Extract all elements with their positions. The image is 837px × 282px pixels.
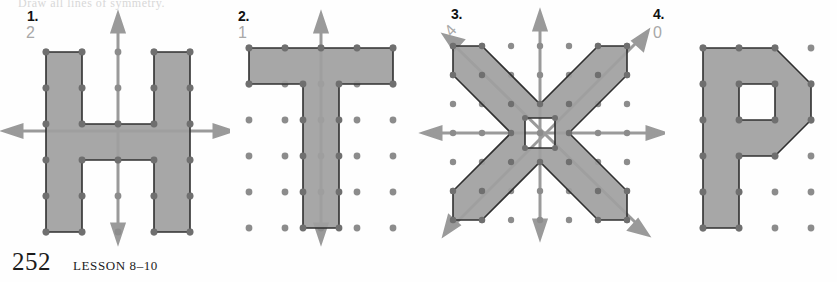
- workbook-page: Draw all lines of symmetry. 1. 2: [0, 0, 837, 282]
- letter-p-shape: [703, 48, 811, 228]
- axis-arrow-left: [4, 125, 22, 137]
- figure-4-canvas: [636, 0, 837, 250]
- axis-arrow-up: [534, 12, 546, 30]
- figure-3-number: 3.: [451, 6, 462, 22]
- figure-4-number: 4.: [653, 6, 664, 22]
- figure-2-t: 2. 1: [218, 0, 428, 250]
- figure-2-number: 2.: [238, 8, 249, 24]
- figure-4-answer: 0: [653, 24, 662, 42]
- figure-2-answer: 1: [238, 24, 247, 42]
- figure-1-number: 1.: [27, 8, 38, 24]
- lesson-label: LESSON 8–10: [73, 258, 158, 274]
- axis-arrow-up: [315, 14, 327, 32]
- letter-t-shape: [249, 48, 393, 228]
- axis-arrow-left: [423, 127, 441, 139]
- figure-1-answer: 2: [26, 24, 35, 42]
- page-number: 252: [12, 248, 51, 276]
- figure-1-h: 1. 2: [0, 0, 230, 250]
- figure-2-canvas: [218, 0, 428, 250]
- figure-3-x: 3. 4: [415, 0, 665, 250]
- page-footer: 252 LESSON 8–10: [12, 248, 158, 276]
- axis-arrow-up: [112, 14, 124, 32]
- figure-4-p: 4. 0: [636, 0, 837, 250]
